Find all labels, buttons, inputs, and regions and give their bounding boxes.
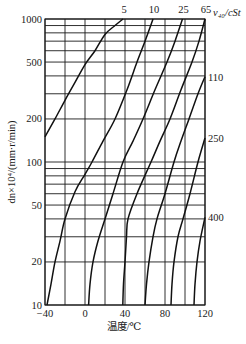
y-tick-label: 1000 bbox=[21, 14, 42, 25]
viscosity-curve-250 bbox=[171, 138, 205, 305]
x-tick-label: 80 bbox=[160, 308, 171, 319]
viscosity-curve-400 bbox=[194, 217, 205, 305]
y-tick-label: 200 bbox=[26, 113, 42, 124]
curve-label-25: 25 bbox=[178, 4, 189, 15]
x-tick-label: 120 bbox=[197, 308, 213, 319]
curve-label-250: 250 bbox=[208, 133, 224, 144]
x-tick-label: 0 bbox=[82, 308, 87, 319]
curve-label-5: 5 bbox=[121, 4, 126, 15]
x-axis-title: 温度/℃ bbox=[107, 320, 142, 332]
y-tick-label: 500 bbox=[26, 57, 42, 68]
curve-label-400: 400 bbox=[208, 212, 224, 223]
x-tick-label: 40 bbox=[120, 308, 131, 319]
curve-label-65: 65 bbox=[201, 4, 212, 15]
curve-label-10: 10 bbox=[149, 4, 160, 15]
viscosity-speed-chart: 1020501002005001000 −4004080120 51025651… bbox=[0, 0, 246, 344]
y-axis-title: dn×10⁴/(mm·r/min) bbox=[6, 120, 18, 204]
curve-label-110: 110 bbox=[208, 72, 223, 83]
y-tick-label: 100 bbox=[26, 157, 42, 168]
y-tick-labels: 1020501002005001000 bbox=[21, 14, 42, 311]
x-tick-labels: −4004080120 bbox=[37, 308, 213, 319]
legend-title: ν₄₀/cSt bbox=[213, 7, 242, 18]
y-tick-label: 20 bbox=[32, 256, 43, 267]
x-tick-label: −40 bbox=[37, 308, 53, 319]
y-tick-label: 50 bbox=[32, 200, 43, 211]
